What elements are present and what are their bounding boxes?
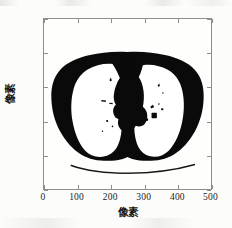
y-axis-title: 像素 <box>2 84 17 104</box>
figure-panel: 0 100 200 300 400 500 0 100 200 300 400 … <box>0 0 232 228</box>
x-axis-title: 像素 <box>43 204 212 219</box>
y-tick-label-group: 0 100 200 300 400 500 <box>0 0 232 228</box>
